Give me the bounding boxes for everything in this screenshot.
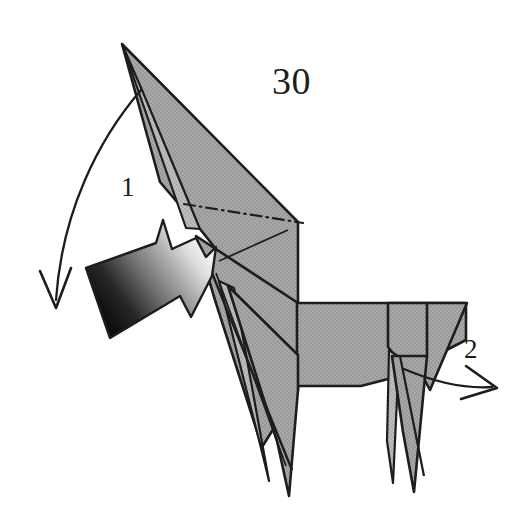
push-arrow-1 — [86, 220, 216, 338]
step-number: 30 — [272, 62, 311, 100]
origami-figure-canvas — [0, 0, 530, 529]
curved-arrow-2-head — [461, 366, 497, 399]
push-arrow-1-body — [86, 220, 216, 338]
curved-arrow-1-head — [40, 268, 71, 308]
origami-step-diagram: 30 1 2 — [0, 0, 530, 529]
fold-callout-1: 1 — [121, 174, 135, 201]
fold-callout-2: 2 — [464, 336, 478, 363]
